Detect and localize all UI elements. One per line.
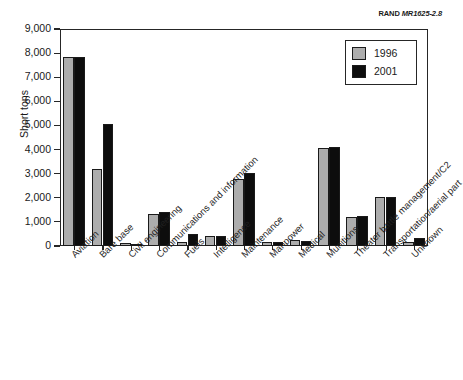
bar-group [315,29,343,246]
y-tick-label: 5,000 [25,118,51,130]
y-tick-label: 7,000 [25,70,51,82]
bar-group [88,29,116,246]
bar-1996 [63,57,74,246]
legend-item-2001: 2001 [352,64,410,79]
y-tick-label: 6,000 [25,94,51,106]
y-tick-label: 2,000 [25,191,51,203]
bar-2001 [329,147,340,246]
y-tick-label: 8,000 [25,46,51,58]
source-tag: RAND MR1625-2.8 [378,9,442,18]
legend-swatch-1996 [352,47,366,60]
y-tick-label: 1,000 [25,215,51,227]
legend-label-2001: 2001 [374,66,397,77]
legend-label-1996: 1996 [374,48,397,59]
legend: 1996 2001 [345,40,417,85]
source-number: MR1625-2.8 [402,9,442,18]
y-axis-ticks: 01,0002,0003,0004,0005,0006,0007,0008,00… [0,29,60,246]
bar-2001 [244,173,255,246]
bar-1996 [205,236,216,246]
legend-item-1996: 1996 [352,46,410,61]
bar-2001 [74,57,85,247]
y-tick-label: 9,000 [25,22,51,34]
legend-swatch-2001 [352,65,366,78]
bar-group [60,29,88,246]
bar-group [230,29,258,246]
bar-2001 [103,124,114,246]
y-tick-label: 4,000 [25,143,51,155]
bar-group [117,29,145,246]
y-tick-label: 3,000 [25,167,51,179]
source-org: RAND [378,9,399,18]
bar-group [286,29,314,246]
bar-group [258,29,286,246]
x-axis-labels: AviationBare baseCivil engineeringCommun… [0,246,448,380]
